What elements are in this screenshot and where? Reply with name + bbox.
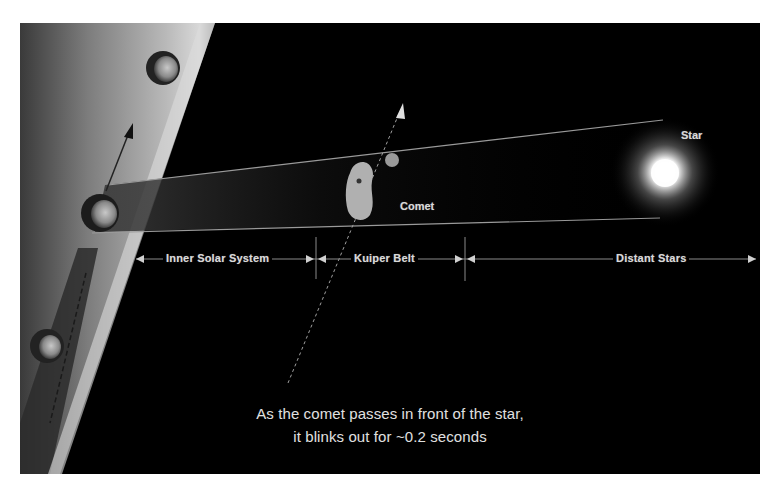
axis-label-inner-solar-system: Inner Solar System (163, 252, 272, 264)
caption-line-2: it blinks out for ~0.2 seconds (20, 428, 760, 445)
axis-label-kuiper-belt: Kuiper Belt (351, 252, 418, 264)
occultation-diagram: Star Comet Inner Solar System Kuiper Bel… (20, 23, 760, 474)
axis-label-distant-stars: Distant Stars (613, 252, 689, 264)
observatory-crater-middle (81, 194, 119, 232)
observatory-crater-top (146, 51, 180, 85)
comet-trajectory (288, 111, 400, 383)
comet-label: Comet (400, 200, 434, 212)
comet-trajectory-arrowhead (396, 103, 405, 119)
caption-line-1: As the comet passes in front of the star… (20, 405, 760, 422)
star-label: Star (681, 129, 702, 141)
observatory-crater-bottom (30, 329, 64, 363)
